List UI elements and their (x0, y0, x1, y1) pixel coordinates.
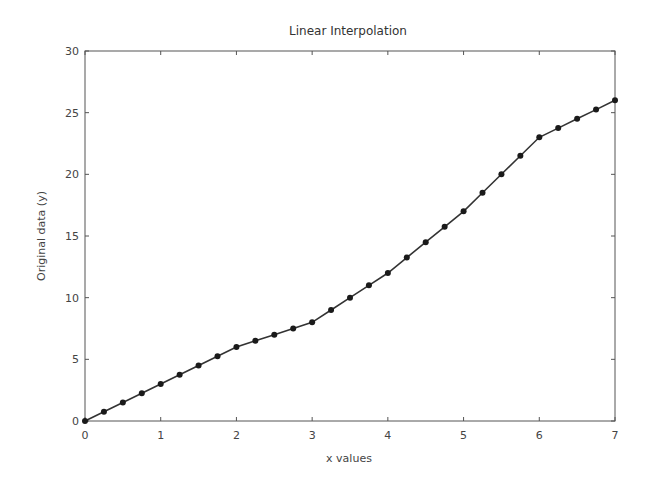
data-point (612, 97, 618, 103)
y-tick-label: 20 (65, 168, 79, 181)
data-point (290, 326, 296, 332)
data-point (536, 134, 542, 140)
data-point (574, 116, 580, 122)
series-line (85, 100, 615, 421)
data-point (309, 319, 315, 325)
data-point (328, 307, 334, 313)
x-tick-label: 4 (384, 429, 391, 442)
y-axis-label: Original data (y) (35, 191, 48, 281)
data-point (593, 107, 599, 113)
x-axis-label: x values (326, 452, 372, 465)
data-point (82, 418, 88, 424)
data-point (555, 125, 561, 131)
plot-area (85, 51, 615, 421)
data-point (442, 224, 448, 230)
data-point (101, 409, 107, 415)
data-point (480, 190, 486, 196)
x-tick-label: 7 (612, 429, 619, 442)
chart-title: Linear Interpolation (289, 24, 407, 38)
data-point (517, 153, 523, 159)
x-tick-label: 3 (309, 429, 316, 442)
data-point (139, 390, 145, 396)
data-point (271, 332, 277, 338)
data-series (82, 97, 618, 424)
x-tick-label: 1 (157, 429, 164, 442)
plot-frame (85, 51, 615, 421)
data-point (404, 255, 410, 261)
data-point (423, 239, 429, 245)
data-point (120, 400, 126, 406)
line-chart: Linear Interpolation 051015202530 012345… (0, 0, 652, 486)
x-tick-label: 2 (233, 429, 240, 442)
y-tick-label: 5 (72, 353, 79, 366)
data-point (177, 372, 183, 378)
y-tick-label: 25 (65, 107, 79, 120)
data-point (252, 338, 258, 344)
data-point (498, 171, 504, 177)
x-tick-label: 5 (460, 429, 467, 442)
data-point (196, 363, 202, 369)
data-point (233, 344, 239, 350)
y-tick-label: 10 (65, 292, 79, 305)
y-tick-label: 30 (65, 45, 79, 58)
data-point (158, 381, 164, 387)
data-point (385, 270, 391, 276)
y-tick-label: 0 (72, 415, 79, 428)
y-axis: 051015202530 (65, 45, 615, 428)
x-tick-label: 6 (536, 429, 543, 442)
data-point (461, 208, 467, 214)
y-tick-label: 15 (65, 230, 79, 243)
x-tick-label: 0 (82, 429, 89, 442)
data-point (347, 295, 353, 301)
data-point (215, 353, 221, 359)
data-point (366, 282, 372, 288)
